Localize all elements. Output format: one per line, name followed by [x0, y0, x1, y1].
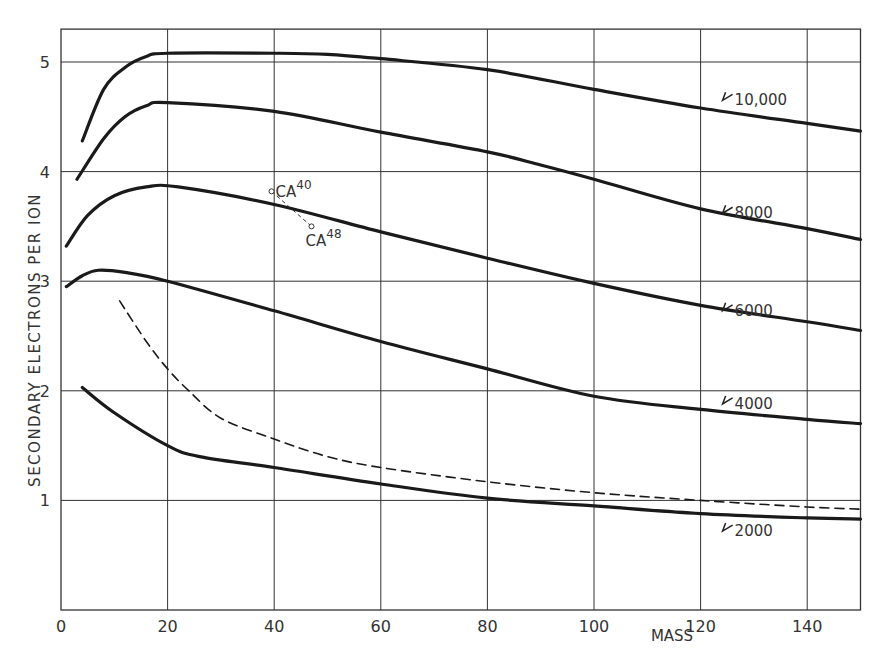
- x-tick-label: 140: [792, 617, 823, 636]
- line-chart: 0204060801001201401234510,00080006000400…: [0, 0, 877, 659]
- series-label: 10,000: [735, 91, 788, 109]
- data-point-marker: [309, 224, 314, 229]
- x-tick-label: 0: [56, 617, 66, 636]
- series-label: 2000: [735, 522, 773, 540]
- y-axis-label: SECONDARY ELECTRONS PER ION: [26, 193, 44, 487]
- x-tick-label: 100: [579, 617, 610, 636]
- x-axis-label: MASS: [651, 627, 693, 645]
- label-arrow-icon: [723, 523, 733, 531]
- isotope-label: CA40: [276, 178, 312, 201]
- label-arrow-icon: [723, 205, 733, 213]
- series-group: [66, 53, 860, 519]
- chart-container: 0204060801001201401234510,00080006000400…: [0, 0, 877, 659]
- series-label: 6000: [735, 302, 773, 320]
- x-tick-label: 20: [157, 617, 177, 636]
- x-tick-label: 40: [264, 617, 284, 636]
- x-tick-label: 60: [371, 617, 391, 636]
- data-point-marker: [269, 189, 274, 194]
- y-tick-label: 4: [40, 163, 50, 182]
- series-label: 4000: [735, 395, 773, 413]
- y-tick-label: 5: [40, 53, 50, 72]
- series-label: 8000: [735, 204, 773, 222]
- label-arrow-icon: [723, 92, 733, 100]
- label-arrow-icon: [723, 396, 733, 404]
- y-tick-label: 1: [40, 491, 50, 510]
- isotope-label: CA48: [306, 227, 342, 250]
- x-tick-label: 80: [477, 617, 497, 636]
